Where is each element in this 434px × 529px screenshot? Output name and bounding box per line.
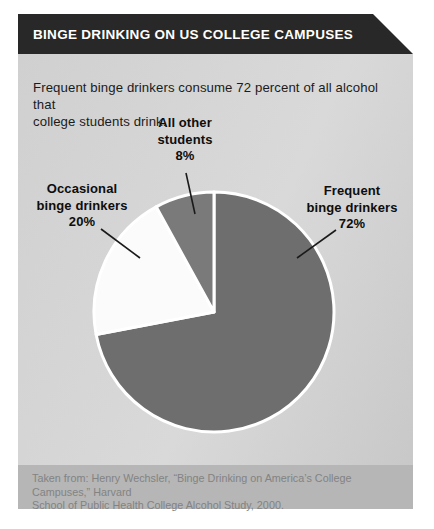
- label-line: binge drinkers: [12, 198, 152, 215]
- label-line: Frequent: [282, 183, 422, 200]
- source-line-1: Taken from: Henry Wechsler, “Binge Drink…: [32, 472, 351, 498]
- source-line-2: School of Public Health College Alcohol …: [32, 499, 284, 511]
- label-line: All other: [130, 115, 240, 132]
- label-pct: 72%: [282, 216, 422, 233]
- source-note: Taken from: Henry Wechsler, “Binge Drink…: [18, 465, 413, 509]
- label-pct: 20%: [12, 214, 152, 231]
- infographic-page: BINGE DRINKING ON US COLLEGE CAMPUSES Fr…: [0, 0, 434, 529]
- label-line: students: [130, 132, 240, 149]
- label-all-other-students: All other students 8%: [130, 115, 240, 165]
- label-pct: 8%: [130, 148, 240, 165]
- label-line: binge drinkers: [282, 200, 422, 217]
- label-line: Occasional: [12, 181, 152, 198]
- label-frequent-binge-drinkers: Frequent binge drinkers 72%: [282, 183, 422, 233]
- label-occasional-binge-drinkers: Occasional binge drinkers 20%: [12, 181, 152, 231]
- pie-chart: [0, 0, 434, 529]
